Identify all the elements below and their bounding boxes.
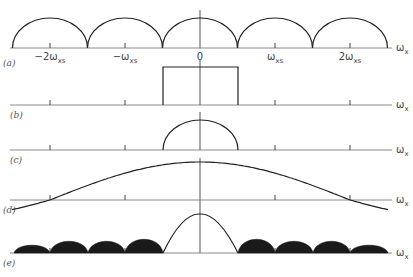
aliasing-lobe	[350, 245, 388, 253]
aliasing-lobe	[14, 245, 50, 253]
aliasing-lobe	[238, 239, 275, 253]
panel-c: (c) ωx	[10, 112, 409, 165]
panel-label-a: (a)	[3, 58, 16, 68]
axis-label-omega-x-d: ωx	[396, 194, 409, 208]
tick-label: ωxs	[267, 51, 284, 65]
aliasing-lobe	[50, 241, 88, 253]
axis-label-omega-x-a: ωx	[396, 42, 409, 56]
figure-canvas: −2ωxs−ωxs0ωxs2ωxs (a) ωx (b) ωx (c) ωx (…	[0, 0, 413, 277]
tick-label: 2ωxs	[339, 51, 362, 65]
tick-label: −ωxs	[113, 51, 138, 65]
panel-d: (d) ωx	[3, 158, 409, 253]
aliasing-lobe	[88, 241, 125, 253]
axis-label-omega-x-b: ωx	[396, 99, 409, 113]
panel-label-c: (c)	[10, 155, 23, 165]
aliasing-lobe	[275, 241, 313, 253]
panel-e: (e) ωx	[3, 214, 409, 268]
panel-a: −2ωxs−ωxs0ωxs2ωxs (a) ωx	[3, 10, 409, 68]
panel-b: (b) ωx	[10, 60, 409, 120]
tick-label: −2ωxs	[35, 51, 66, 65]
axis-label-omega-x-c: ωx	[396, 144, 409, 158]
aliasing-lobe	[125, 239, 163, 253]
axis-label-omega-x-e: ωx	[396, 247, 409, 261]
panel-label-d: (d)	[3, 205, 16, 215]
panel-label-b: (b)	[10, 110, 23, 120]
aliasing-lobe	[313, 241, 350, 253]
panel-label-e: (e)	[3, 258, 16, 268]
